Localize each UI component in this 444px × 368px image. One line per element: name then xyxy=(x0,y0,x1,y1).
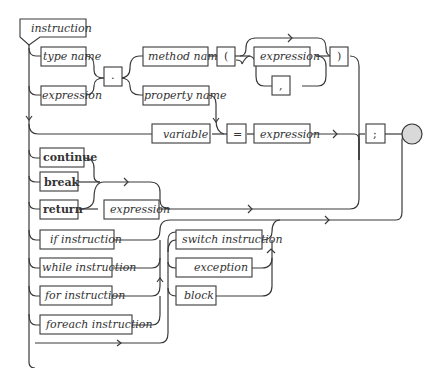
node-switch-instruction: switch instruction xyxy=(176,230,283,249)
node-while-instruction: while instruction xyxy=(40,258,136,277)
svg-text:foreach instruction: foreach instruction xyxy=(45,318,153,331)
node-property-name: property name xyxy=(143,86,227,105)
node-variable: variable xyxy=(152,124,210,143)
node-continue: continue xyxy=(40,148,97,167)
svg-text:expression: expression xyxy=(260,50,320,63)
node-expression-head: expression xyxy=(41,86,102,105)
svg-text:break: break xyxy=(44,176,80,189)
svg-text:variable: variable xyxy=(163,128,209,141)
instruction-syntax-diagram: type name instruction type name expressi… xyxy=(0,0,444,368)
svg-text:switch instruction: switch instruction xyxy=(182,233,283,246)
svg-text:expression: expression xyxy=(42,89,102,102)
svg-text:exception: exception xyxy=(194,261,248,274)
title-label: instruction xyxy=(31,22,92,35)
svg-text:expression: expression xyxy=(260,128,320,141)
node-close-paren: ) xyxy=(330,47,348,66)
node-method-name: method name xyxy=(143,47,225,66)
svg-text:): ) xyxy=(337,50,341,63)
svg-text:;: ; xyxy=(373,128,377,141)
node-open-paren: ( xyxy=(217,47,235,66)
svg-text:(: ( xyxy=(224,50,228,63)
node-if-instruction: if instruction xyxy=(40,230,122,249)
node-type-name: type name xyxy=(41,47,102,66)
svg-text:property name: property name xyxy=(144,89,227,102)
svg-text:for instruction: for instruction xyxy=(44,289,125,302)
svg-text:type name: type name xyxy=(43,50,102,63)
svg-text:,: , xyxy=(279,79,283,92)
svg-text:return: return xyxy=(43,203,83,216)
node-dot: . xyxy=(104,67,122,86)
node-return: return xyxy=(40,200,83,219)
svg-text:if instruction: if instruction xyxy=(50,233,122,246)
node-return-expression: expression xyxy=(104,200,170,219)
node-assign-expression: expression xyxy=(254,124,320,143)
node-equals: = xyxy=(227,124,246,143)
svg-text:while instruction: while instruction xyxy=(42,261,136,274)
node-break: break xyxy=(40,172,80,191)
node-exception: exception xyxy=(176,258,252,277)
svg-text:expression: expression xyxy=(110,203,170,216)
node-semicolon: ; xyxy=(366,124,385,143)
svg-text:=: = xyxy=(233,128,242,141)
diagram-title: type name instruction xyxy=(20,19,92,45)
node-block: block xyxy=(176,286,216,305)
node-arg-expression: expression xyxy=(254,47,320,66)
svg-text:continue: continue xyxy=(43,151,97,164)
svg-text:.: . xyxy=(111,69,115,82)
svg-text:block: block xyxy=(184,289,214,302)
end-node xyxy=(402,124,422,144)
svg-text:method name: method name xyxy=(148,50,225,63)
node-for-instruction: for instruction xyxy=(40,286,125,305)
node-foreach-instruction: foreach instruction xyxy=(40,315,153,334)
node-comma: , xyxy=(272,76,290,95)
